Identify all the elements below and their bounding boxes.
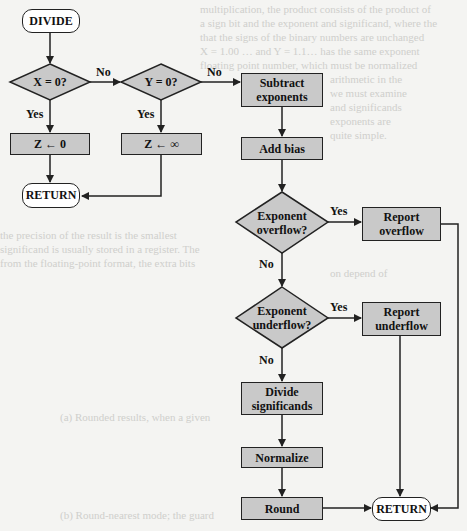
decision-exponent-underflow: Exponent underflow? [236,287,328,348]
edge-label-y-no: No [207,65,222,79]
process-report-overflow: Report overflow [362,207,441,241]
edge-label-underflow-yes: Yes [330,300,347,314]
process-label-line2: underflow [375,319,428,333]
process-z-zero: Z ← 0 [10,133,90,155]
process-report-underflow: Report underflow [362,302,441,336]
decision-y-zero: Y = 0? [121,64,201,100]
start-terminal: DIVIDE [22,9,80,33]
process-label-line2: overflow [379,224,424,238]
decision-label-line2: underflow? [253,318,312,332]
return-label: RETURN [26,188,77,203]
process-label: Add bias [259,142,305,156]
return-terminal-left: RETURN [22,183,80,208]
decision-label: X = 0? [33,75,67,89]
decision-exponent-overflow: Exponent overflow? [236,192,328,253]
process-label-line2: exponents [256,90,307,104]
process-label: Z ← 0 [34,137,66,151]
edge-label-x-yes: Yes [26,107,43,121]
decision-label-line1: Exponent [257,304,306,318]
process-subtract-exponents: Subtract exponents [241,73,323,107]
return-terminal-right: RETURN [372,497,431,521]
process-label-line1: Subtract [260,76,305,90]
process-label-line1: Report [384,305,420,319]
process-z-infinity: Z ← ∞ [121,133,202,155]
process-divide-significands: Divide significands [241,382,323,415]
decision-x-zero: X = 0? [10,64,90,100]
process-add-bias: Add bias [241,137,323,160]
process-normalize: Normalize [241,447,323,468]
edge-label-overflow-no: No [259,257,274,271]
process-label: Normalize [255,451,308,465]
decision-label-line2: overflow? [257,223,308,237]
edge-label-x-no: No [96,65,111,79]
process-label-line1: Divide [265,385,298,399]
process-label-line1: Report [384,210,420,224]
process-label-line2: significands [252,399,313,413]
process-label: Round [265,502,300,516]
process-round: Round [241,497,323,520]
edge-label-y-yes: Yes [137,107,154,121]
edge-label-underflow-no: No [259,353,274,367]
decision-label: Y = 0? [144,75,177,89]
start-label: DIVIDE [29,14,72,29]
decision-label-line1: Exponent [257,209,306,223]
process-label: Z ← ∞ [144,137,179,151]
return-label: RETURN [376,502,427,517]
edge-label-overflow-yes: Yes [330,204,347,218]
